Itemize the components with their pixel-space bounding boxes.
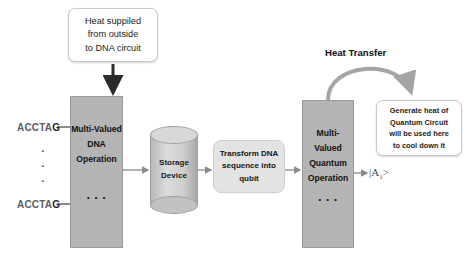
output-ket-prefix: |A bbox=[369, 166, 379, 178]
node-dna-operation-label: Multi-Valued DNA Operation bbox=[71, 124, 122, 164]
dna-sequence-top-head: ACCTA bbox=[17, 122, 52, 133]
output-ket-suffix: > bbox=[383, 166, 389, 178]
output-qubit-ket: |A1> bbox=[369, 166, 389, 181]
node-dna-operation[interactable]: Multi-Valued DNA Operation · · · bbox=[70, 96, 123, 248]
input-dna-sequence-top: ACCTAG bbox=[17, 122, 60, 133]
node-transform-label: Transform DNA sequence into qubit bbox=[214, 148, 284, 186]
input-vertical-dots: · · · bbox=[36, 144, 50, 189]
callout-quantum-heat-text: Generate heat of Quantum Circuit will be… bbox=[381, 105, 457, 151]
node-storage-device[interactable]: Storage Device bbox=[150, 126, 198, 214]
diagram-canvas: Heat suppiled from outside to DNA circui… bbox=[0, 0, 467, 265]
node-quantum-operation-label: Multi-Valued Quantum Operation bbox=[308, 128, 349, 183]
dna-sequence-top-tail: G bbox=[52, 122, 60, 133]
callout-heat-input-text: Heat suppiled from outside to DNA circui… bbox=[72, 15, 154, 56]
input-dna-sequence-bottom: ACCTAG bbox=[17, 199, 60, 210]
node-transform[interactable]: Transform DNA sequence into qubit bbox=[213, 140, 285, 193]
callout-heat-input: Heat suppiled from outside to DNA circui… bbox=[68, 8, 158, 62]
node-quantum-operation[interactable]: Multi-Valued Quantum Operation · · · bbox=[302, 100, 354, 248]
dna-sequence-bottom-tail: G bbox=[52, 199, 60, 210]
node-storage-device-label: Storage Device bbox=[150, 156, 198, 182]
cylinder-bottom-ellipse bbox=[150, 196, 198, 214]
arrow-heat-transfer-curve bbox=[328, 69, 411, 100]
dna-sequence-bottom-head: ACCTA bbox=[17, 199, 52, 210]
cylinder-top-ellipse bbox=[150, 126, 198, 144]
dna-operation-dots: · · · bbox=[71, 192, 122, 203]
label-heat-transfer: Heat Transfer bbox=[325, 47, 386, 58]
quantum-operation-dots: · · · bbox=[303, 194, 353, 205]
callout-quantum-heat: Generate heat of Quantum Circuit will be… bbox=[376, 100, 462, 156]
